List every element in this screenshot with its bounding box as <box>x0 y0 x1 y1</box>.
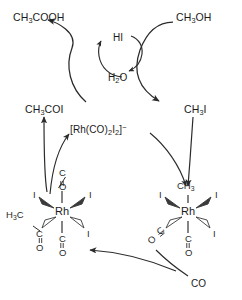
left-complex-acyl-carbon: C <box>36 229 43 239</box>
top-arc-acetyl-iodide-to-acetic-acid <box>48 20 86 102</box>
right-complex-iodide-upper-left: I <box>159 190 162 200</box>
right-complex-iodide-upper-right: I <box>215 190 218 200</box>
left-complex-co-top-carbon: C <box>59 168 66 178</box>
species-water: H2O <box>108 73 127 84</box>
arrow-methyl-iodide-to-right-complex <box>188 117 193 186</box>
right-complex-metal-rh: Rh <box>181 205 195 217</box>
arrow-catalyst-to-right-complex <box>150 133 186 186</box>
left-complex-iodide-upper-left: I <box>33 190 36 200</box>
left-complex-acyl-oxygen: O <box>36 243 43 253</box>
right-complex-methyl-top: CH3 <box>177 181 195 193</box>
species-acetic-acid: CH3COOH <box>13 12 65 24</box>
species-acetyl-iodide: CH3COI <box>25 104 64 116</box>
scheme-vector-layer <box>0 0 242 300</box>
inner-arc-water-released <box>129 36 142 71</box>
right-complex-co-bottom-oxygen: O <box>185 248 192 258</box>
left-complex-iodide-lower-right: I <box>87 229 90 239</box>
left-complex-co-bottom-oxygen: O <box>59 248 66 258</box>
left-complex-co-top-oxygen: O <box>59 182 66 192</box>
right-complex-iodide-lower-right: I <box>213 229 216 239</box>
left-complex-co-bottom-carbon: C <box>59 234 66 244</box>
species-catalyst-anion: [Rh(CO)2I2]− <box>70 124 127 137</box>
arrow-right-complex-to-left-complex <box>90 250 176 271</box>
arrow-co-to-right-complex <box>156 250 188 276</box>
top-arc-methanol-to-methyl-iodide <box>137 22 173 101</box>
species-carbon-monoxide: CO <box>191 279 206 289</box>
species-methanol: CH3OH <box>176 12 212 24</box>
left-complex-metal-rh: Rh <box>55 205 69 217</box>
left-complex-acyl-methyl: H3C <box>6 210 24 222</box>
reaction-scheme-diagram: CH3COOH CH3OH HI H2O CH3COI CH3I [Rh(CO)… <box>0 0 242 300</box>
species-hydrogen-iodide: HI <box>113 33 123 43</box>
right-complex-co-bottom-carbon: C <box>185 234 192 244</box>
arrow-left-complex-to-acetyl-iodide <box>44 117 47 192</box>
left-complex-iodide-upper-right: I <box>89 190 92 200</box>
species-methyl-iodide: CH3I <box>184 104 207 116</box>
